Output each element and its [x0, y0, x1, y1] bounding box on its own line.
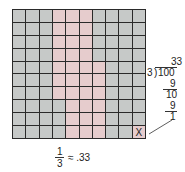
grid-cell — [40, 113, 52, 125]
grid-cell — [53, 87, 65, 99]
grid-cell — [40, 36, 52, 48]
leader-line — [148, 118, 178, 136]
grid-cell — [26, 62, 38, 74]
grid-cell — [66, 126, 78, 138]
grid-cell — [26, 36, 38, 48]
denominator: 3 — [57, 158, 63, 169]
grid-cell — [119, 100, 131, 112]
grid-cell — [93, 74, 105, 86]
grid-cell — [13, 126, 25, 138]
grid-cell — [133, 23, 145, 35]
grid-cell — [119, 113, 131, 125]
grid-cell — [40, 126, 52, 138]
grid-cell — [119, 10, 131, 22]
grid-cell — [80, 87, 92, 99]
grid-cell — [106, 62, 118, 74]
grid-cell — [93, 10, 105, 22]
grid-cell — [133, 10, 145, 22]
grid-cell — [26, 87, 38, 99]
grid-cell — [106, 87, 118, 99]
step-1-result: 10 — [166, 90, 177, 100]
grid-cell — [133, 74, 145, 86]
grid-cell — [119, 49, 131, 61]
grid-cell — [106, 49, 118, 61]
grid-cell — [93, 113, 105, 125]
grid-cell — [80, 10, 92, 22]
decimal-value: .33 — [76, 152, 90, 163]
grid-cell — [66, 10, 78, 22]
grid-cell — [133, 113, 145, 125]
grid-cell — [106, 10, 118, 22]
grid-cell — [13, 87, 25, 99]
grid-cell — [66, 36, 78, 48]
remainder-cell: X — [133, 126, 145, 138]
grid-cell — [40, 100, 52, 112]
grid-cell — [80, 100, 92, 112]
grid-cell — [26, 49, 38, 61]
grid-cell — [106, 126, 118, 138]
grid-cell — [53, 113, 65, 125]
grid-cell — [80, 36, 92, 48]
divisor: 3 — [147, 68, 153, 78]
grid-cell — [26, 100, 38, 112]
grid-cell — [53, 62, 65, 74]
grid-cell — [93, 62, 105, 74]
grid-cell — [93, 36, 105, 48]
division-bracket: ) — [154, 68, 157, 78]
grid-cell — [80, 62, 92, 74]
grid-cell — [53, 74, 65, 86]
grid-cell — [93, 126, 105, 138]
grid-cell — [40, 49, 52, 61]
grid-cell — [93, 49, 105, 61]
grid-cell — [133, 62, 145, 74]
grid-cell — [80, 126, 92, 138]
grid-cell — [80, 74, 92, 86]
grid-cell — [133, 36, 145, 48]
grid-cell — [80, 49, 92, 61]
grid-cell — [13, 74, 25, 86]
grid-cell — [13, 10, 25, 22]
grid-cell — [93, 23, 105, 35]
subtract-1: 9 — [170, 79, 176, 89]
grid-cell — [106, 23, 118, 35]
grid-cell — [53, 49, 65, 61]
grid-cell — [66, 62, 78, 74]
grid-cell — [66, 23, 78, 35]
grid-cell — [106, 113, 118, 125]
grid-cell — [66, 100, 78, 112]
hundred-grid: X — [12, 9, 146, 139]
grid-cell — [80, 23, 92, 35]
grid-cell — [13, 49, 25, 61]
grid-cell — [119, 62, 131, 74]
grid-cell — [13, 113, 25, 125]
grid-cell — [13, 100, 25, 112]
grid-cell — [26, 126, 38, 138]
grid-cell — [26, 10, 38, 22]
grid-cell — [40, 74, 52, 86]
grid-cell — [40, 87, 52, 99]
grid-cell — [53, 10, 65, 22]
grid-cell — [66, 74, 78, 86]
grid-cell — [119, 74, 131, 86]
grid-cell — [119, 36, 131, 48]
grid-cell — [106, 36, 118, 48]
grid-cell — [66, 49, 78, 61]
grid-cell — [80, 113, 92, 125]
grid-cell — [119, 87, 131, 99]
grid-cell — [53, 126, 65, 138]
approx-value: ≈ .33 — [68, 152, 90, 163]
grid-cell — [93, 87, 105, 99]
grid-cell — [53, 36, 65, 48]
approx-symbol: ≈ — [68, 152, 74, 163]
dividend: 100 — [158, 68, 175, 78]
grid-cell — [133, 87, 145, 99]
grid-cell — [26, 113, 38, 125]
grid-cell — [40, 10, 52, 22]
grid-cell — [13, 23, 25, 35]
grid-cell — [119, 23, 131, 35]
grid-cell — [106, 74, 118, 86]
grid-cell — [26, 74, 38, 86]
grid-cell — [40, 62, 52, 74]
grid-cell — [66, 87, 78, 99]
grid-cell — [53, 23, 65, 35]
